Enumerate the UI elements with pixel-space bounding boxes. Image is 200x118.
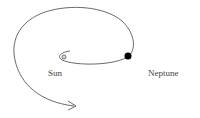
neptune-label: Neptune [148,69,179,78]
spiral-path [14,7,134,106]
neptune-icon [125,53,132,60]
sun-label: Sun [48,69,62,78]
sun-icon [62,55,66,59]
spiral-orbit-diagram [0,0,200,118]
